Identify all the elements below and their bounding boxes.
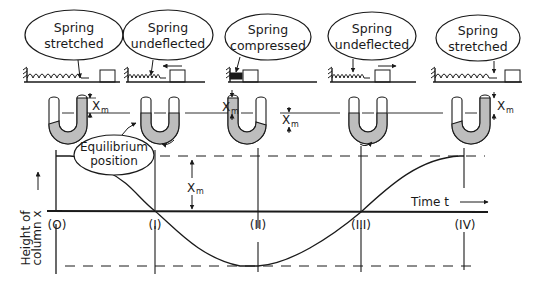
spring-mass-panel-O (23, 67, 120, 82)
amplitude-subscript: m (101, 106, 109, 115)
equilibrium-label-line1: Equilibrium (80, 140, 148, 154)
amplitude-label: X (222, 100, 230, 114)
tick-label-IV: (IV) (454, 218, 475, 232)
bubble-panel-IV: Spring stretched (436, 15, 520, 73)
tick-label-II: (II) (250, 218, 266, 232)
spring-icon (332, 75, 370, 79)
amplitude-marker-panel-IV: X m (494, 92, 514, 120)
u-tube-panel-I (141, 97, 179, 145)
amplitude-label: X (282, 113, 290, 127)
mass-block-icon (170, 70, 185, 82)
bubble-text-line2: stretched (448, 39, 507, 54)
bubble-text-line2: stretched (44, 36, 103, 51)
tick-label-I: (I) (149, 218, 162, 232)
tick-label-O: (O) (48, 218, 67, 232)
amplitude-label: X (497, 99, 505, 113)
bubble-text-line2: compressed (230, 38, 306, 53)
mass-block-icon (243, 70, 258, 82)
time-axis (47, 211, 488, 212)
bubble-text-line1: Spring (248, 22, 288, 37)
spring-mass-panel-I (124, 66, 205, 82)
u-tube-panel-III (349, 97, 387, 146)
u-tube-panel-O (49, 95, 87, 144)
tick-label-III: (III) (351, 218, 371, 232)
bubble-panel-II: Spring compressed (225, 14, 311, 72)
amplitude-marker-panel-O: X m (86, 93, 109, 118)
spring-mass-panel-II (226, 67, 317, 82)
time-axis-label: Time t (410, 195, 449, 209)
bubble-text-line1: Spring (148, 20, 188, 35)
bubble-panel-I: Spring undeflected (123, 10, 213, 75)
mass-block-icon (100, 70, 115, 82)
graph-amplitude-subscript: m (196, 187, 204, 196)
equilibrium-label-line2: position (90, 154, 138, 168)
mass-block-icon (375, 70, 390, 82)
u-tube-panel-II (228, 95, 266, 144)
bubble-panel-III: Spring undeflected (328, 12, 416, 72)
spring-mass-panel-IV (431, 67, 522, 82)
amplitude-subscript: m (506, 106, 514, 115)
spring-mass-panel-III (328, 66, 416, 82)
amplitude-label: X (92, 99, 100, 113)
bubble-text-line2: undeflected (131, 36, 205, 51)
graph-amplitude-label: X (187, 181, 195, 195)
u-tube-oscillation-diagram: Spring stretched Spring undeflected Spri… (0, 0, 540, 290)
spring-icon (435, 74, 497, 78)
liquid-column (452, 98, 490, 144)
bubble-text-line2: undeflected (335, 37, 409, 52)
compressed-spring-icon (230, 73, 242, 79)
amplitude-subscript: m (291, 120, 299, 129)
amplitude-subscript: m (231, 107, 239, 116)
bubble-text-line1: Spring (54, 20, 94, 35)
u-tube-panel-IV (452, 95, 490, 144)
bubble-text-line1: Spring (352, 21, 392, 36)
mass-block-icon (505, 70, 520, 82)
spring-icon (128, 75, 166, 79)
liquid-column (349, 113, 387, 144)
y-axis-label-line2: column x (30, 210, 44, 265)
liquid-column (49, 98, 87, 144)
liquid-column (228, 98, 266, 144)
bubble-panel-O: Spring stretched (25, 10, 123, 78)
bubble-text-line1: Spring (458, 23, 498, 38)
